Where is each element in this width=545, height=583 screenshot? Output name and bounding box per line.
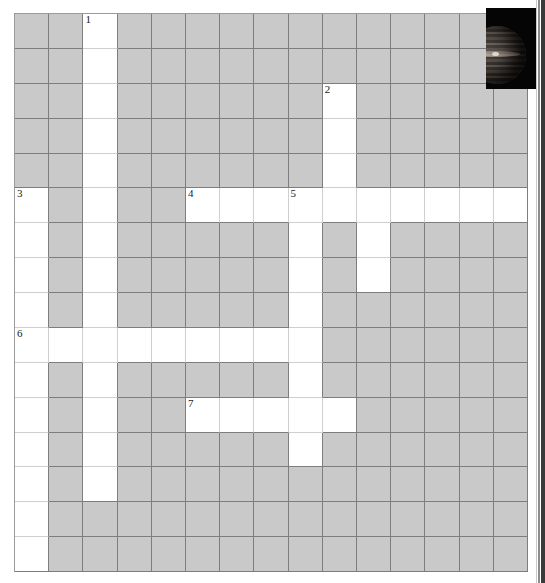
crossword-cell-open[interactable]: [15, 398, 49, 433]
clue-number: 6: [17, 327, 23, 340]
crossword-cell-block: [118, 84, 152, 119]
crossword-cell-open[interactable]: [391, 188, 425, 223]
crossword-cell-block: [118, 223, 152, 258]
crossword-cell-open[interactable]: [460, 188, 494, 223]
crossword-cell-block: [323, 467, 357, 502]
crossword-cell-open[interactable]: 4: [186, 188, 220, 223]
clue-number: 4: [188, 187, 194, 200]
crossword-cell-open[interactable]: [289, 293, 323, 328]
crossword-cell-block: [118, 433, 152, 468]
crossword-cell-block: [49, 398, 83, 433]
crossword-cell-open[interactable]: [289, 363, 323, 398]
page-edge-line-inner: [538, 0, 540, 583]
crossword-cell-open[interactable]: [83, 49, 117, 84]
crossword-cell-block: [494, 119, 528, 154]
crossword-cell-block: [118, 502, 152, 537]
crossword-cell-open[interactable]: [83, 433, 117, 468]
crossword-cell-open[interactable]: [323, 119, 357, 154]
crossword-cell-block: [357, 467, 391, 502]
crossword-cell-open[interactable]: 1: [83, 14, 117, 49]
crossword-cell-open[interactable]: [83, 363, 117, 398]
crossword-cell-block: [289, 119, 323, 154]
crossword-cell-block: [391, 49, 425, 84]
crossword-cell-open[interactable]: [323, 154, 357, 189]
crossword-cell-open[interactable]: [425, 188, 459, 223]
crossword-cell-block: [425, 49, 459, 84]
crossword-cell-open[interactable]: [289, 398, 323, 433]
crossword-cell-open[interactable]: 3: [15, 188, 49, 223]
crossword-cell-open[interactable]: [83, 328, 117, 363]
crossword-cell-open[interactable]: [289, 258, 323, 293]
crossword-cell-open[interactable]: [186, 328, 220, 363]
crossword-cell-open[interactable]: [323, 188, 357, 223]
crossword-cell-block: [460, 223, 494, 258]
crossword-cell-block: [391, 14, 425, 49]
crossword-cell-open[interactable]: [254, 188, 288, 223]
crossword-cell-open[interactable]: [15, 537, 49, 572]
crossword-cell-open[interactable]: [220, 188, 254, 223]
crossword-cell-block: [494, 537, 528, 572]
crossword-cell-open[interactable]: [289, 328, 323, 363]
crossword-cell-open[interactable]: [49, 328, 83, 363]
crossword-cell-open[interactable]: [83, 293, 117, 328]
crossword-cell-block: [460, 398, 494, 433]
crossword-cell-open[interactable]: 7: [186, 398, 220, 433]
crossword-cell-open[interactable]: [83, 119, 117, 154]
crossword-cell-open[interactable]: 6: [15, 328, 49, 363]
crossword-cell-block: [152, 363, 186, 398]
crossword-cell-open[interactable]: [118, 328, 152, 363]
page-edge-line-outer: [541, 0, 545, 583]
crossword-grid[interactable]: 1234567: [14, 13, 528, 572]
crossword-cell-open[interactable]: [289, 223, 323, 258]
crossword-cell-open[interactable]: [254, 328, 288, 363]
crossword-cell-open[interactable]: [83, 223, 117, 258]
crossword-cell-block: [186, 502, 220, 537]
crossword-cell-block: [391, 502, 425, 537]
crossword-cell-block: [323, 502, 357, 537]
crossword-cell-open[interactable]: [83, 467, 117, 502]
crossword-cell-open[interactable]: [323, 398, 357, 433]
crossword-cell-open[interactable]: [289, 433, 323, 468]
crossword-cell-open[interactable]: [83, 398, 117, 433]
crossword-cell-open[interactable]: [357, 223, 391, 258]
crossword-cell-open[interactable]: [83, 188, 117, 223]
crossword-cell-block: [152, 398, 186, 433]
crossword-cell-block: [49, 188, 83, 223]
crossword-cell-block: [152, 293, 186, 328]
crossword-cell-block: [254, 49, 288, 84]
crossword-cell-block: [186, 293, 220, 328]
crossword-cell-block: [49, 502, 83, 537]
crossword-cell-block: [152, 467, 186, 502]
crossword-cell-open[interactable]: [83, 84, 117, 119]
crossword-cell-open[interactable]: [15, 502, 49, 537]
crossword-cell-open[interactable]: [15, 258, 49, 293]
crossword-cell-open[interactable]: 5: [289, 188, 323, 223]
crossword-cell-block: [323, 363, 357, 398]
crossword-cell-open[interactable]: [83, 258, 117, 293]
crossword-cell-block: [357, 293, 391, 328]
crossword-cell-block: [357, 49, 391, 84]
crossword-cell-open[interactable]: [254, 398, 288, 433]
crossword-cell-open[interactable]: [220, 398, 254, 433]
crossword-cell-block: [425, 363, 459, 398]
crossword-cell-open[interactable]: [83, 154, 117, 189]
crossword-cell-block: [494, 363, 528, 398]
crossword-cell-block: [254, 433, 288, 468]
crossword-cell-open[interactable]: [494, 188, 528, 223]
crossword-cell-open[interactable]: [357, 188, 391, 223]
crossword-cell-open[interactable]: [357, 258, 391, 293]
crossword-cell-block: [83, 537, 117, 572]
crossword-cell-block: [83, 502, 117, 537]
crossword-cell-block: [118, 467, 152, 502]
crossword-cell-block: [49, 363, 83, 398]
crossword-cell-open[interactable]: [220, 328, 254, 363]
crossword-cell-block: [220, 537, 254, 572]
crossword-cell-open[interactable]: [15, 293, 49, 328]
crossword-cell-block: [49, 119, 83, 154]
crossword-cell-open[interactable]: [15, 433, 49, 468]
crossword-cell-open[interactable]: [15, 467, 49, 502]
crossword-cell-open[interactable]: [15, 363, 49, 398]
crossword-cell-open[interactable]: [152, 328, 186, 363]
crossword-cell-open[interactable]: 2: [323, 84, 357, 119]
crossword-cell-open[interactable]: [15, 223, 49, 258]
